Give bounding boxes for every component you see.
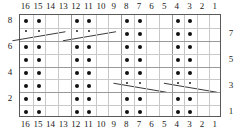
grid-line-horizontal <box>20 67 220 68</box>
row-label-right: 1 <box>225 105 237 117</box>
purl-stitch-dot <box>188 71 192 75</box>
knitting-chart: 1615141312111098765432116151413121110987… <box>0 0 240 132</box>
grid-line-horizontal <box>20 54 220 55</box>
small-tick-mark <box>139 82 141 84</box>
grid-line-vertical <box>134 15 135 116</box>
purl-stitch-dot <box>75 71 79 75</box>
purl-stitch-dot <box>75 97 79 101</box>
row-label-left: 6 <box>4 40 16 52</box>
purl-stitch-dot <box>188 97 192 101</box>
purl-stitch-dot <box>87 58 91 62</box>
purl-stitch-dot <box>87 71 91 75</box>
purl-stitch-dot <box>87 19 91 23</box>
row-label-left: 4 <box>4 66 16 78</box>
purl-stitch-dot <box>37 97 41 101</box>
purl-stitch-dot <box>188 32 192 36</box>
purl-stitch-dot <box>37 110 41 114</box>
purl-stitch-dot <box>125 19 129 23</box>
grid-line-vertical <box>159 15 160 116</box>
purl-stitch-dot <box>24 45 28 49</box>
purl-stitch-dot <box>37 19 41 23</box>
purl-stitch-dot <box>176 58 180 62</box>
purl-stitch-dot <box>138 32 142 36</box>
purl-stitch-dot <box>75 110 79 114</box>
row-label-right: 5 <box>225 53 237 65</box>
small-tick-mark <box>76 30 78 32</box>
purl-stitch-dot <box>75 84 79 88</box>
purl-stitch-dot <box>188 19 192 23</box>
purl-stitch-dot <box>24 58 28 62</box>
grid-line-horizontal <box>20 28 220 29</box>
grid-line-vertical <box>58 15 59 116</box>
purl-stitch-dot <box>176 32 180 36</box>
purl-stitch-dot <box>176 19 180 23</box>
purl-stitch-dot <box>75 58 79 62</box>
purl-stitch-dot <box>138 45 142 49</box>
grid-line-horizontal <box>20 92 220 93</box>
small-tick-mark <box>177 82 179 84</box>
column-label-bottom: 1 <box>208 118 222 130</box>
grid-line-vertical <box>33 15 34 116</box>
grid-line-vertical <box>45 15 46 116</box>
grid-line-vertical <box>146 15 147 116</box>
purl-stitch-dot <box>75 45 79 49</box>
purl-stitch-dot <box>125 97 129 101</box>
purl-stitch-dot <box>188 58 192 62</box>
purl-stitch-dot <box>87 45 91 49</box>
purl-stitch-dot <box>138 97 142 101</box>
row-label-right: 7 <box>225 27 237 39</box>
small-tick-mark <box>38 30 40 32</box>
purl-stitch-dot <box>24 19 28 23</box>
small-tick-mark <box>25 30 27 32</box>
purl-stitch-dot <box>138 110 142 114</box>
small-tick-mark <box>189 82 191 84</box>
purl-stitch-dot <box>37 58 41 62</box>
purl-stitch-dot <box>87 97 91 101</box>
purl-stitch-dot <box>87 84 91 88</box>
row-label-left: 2 <box>4 92 16 104</box>
grid-line-vertical <box>121 15 122 116</box>
grid-line-vertical <box>184 15 185 116</box>
purl-stitch-dot <box>138 58 142 62</box>
purl-stitch-dot <box>176 71 180 75</box>
chart-grid <box>19 14 221 117</box>
purl-stitch-dot <box>176 45 180 49</box>
purl-stitch-dot <box>37 84 41 88</box>
purl-stitch-dot <box>37 45 41 49</box>
purl-stitch-dot <box>75 19 79 23</box>
grid-line-vertical <box>83 15 84 116</box>
purl-stitch-dot <box>176 110 180 114</box>
purl-stitch-dot <box>125 110 129 114</box>
purl-stitch-dot <box>188 110 192 114</box>
purl-stitch-dot <box>138 19 142 23</box>
purl-stitch-dot <box>125 32 129 36</box>
purl-stitch-dot <box>125 71 129 75</box>
purl-stitch-dot <box>24 97 28 101</box>
grid-line-vertical <box>209 15 210 116</box>
purl-stitch-dot <box>125 58 129 62</box>
grid-line-vertical <box>172 15 173 116</box>
purl-stitch-dot <box>125 45 129 49</box>
purl-stitch-dot <box>37 71 41 75</box>
row-label-right: 3 <box>225 79 237 91</box>
grid-line-horizontal <box>20 41 220 42</box>
grid-line-vertical <box>96 15 97 116</box>
column-label-top: 1 <box>208 0 222 12</box>
small-tick-mark <box>88 30 90 32</box>
purl-stitch-dot <box>176 97 180 101</box>
purl-stitch-dot <box>24 110 28 114</box>
small-tick-mark <box>126 82 128 84</box>
grid-line-vertical <box>197 15 198 116</box>
grid-line-vertical <box>71 15 72 116</box>
grid-line-horizontal <box>20 79 220 80</box>
purl-stitch-dot <box>188 45 192 49</box>
row-label-left: 8 <box>4 14 16 26</box>
grid-line-horizontal <box>20 105 220 106</box>
purl-stitch-dot <box>24 71 28 75</box>
grid-line-vertical <box>108 15 109 116</box>
purl-stitch-dot <box>138 71 142 75</box>
purl-stitch-dot <box>87 110 91 114</box>
purl-stitch-dot <box>24 84 28 88</box>
